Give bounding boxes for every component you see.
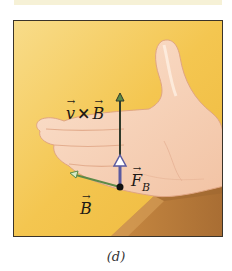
field-label-symbol: B xyxy=(80,201,92,217)
field-symbol: B xyxy=(92,106,104,122)
panel-label: (d) xyxy=(107,249,125,264)
force-subscript: B xyxy=(142,181,150,194)
force-symbol: F xyxy=(131,173,142,189)
panel-caption: (d) xyxy=(0,249,232,264)
top-color-band xyxy=(14,0,222,5)
velocity-symbol: v xyxy=(66,106,75,122)
force-label: FB xyxy=(131,173,150,193)
field-label: B xyxy=(80,201,92,217)
cross-operator: × xyxy=(77,104,90,123)
v-cross-b-label: v×B xyxy=(66,106,104,122)
hand-diagram-svg xyxy=(14,21,223,237)
origin-point xyxy=(117,184,124,191)
right-hand-rule-illustration: v×B FB B xyxy=(13,20,223,237)
